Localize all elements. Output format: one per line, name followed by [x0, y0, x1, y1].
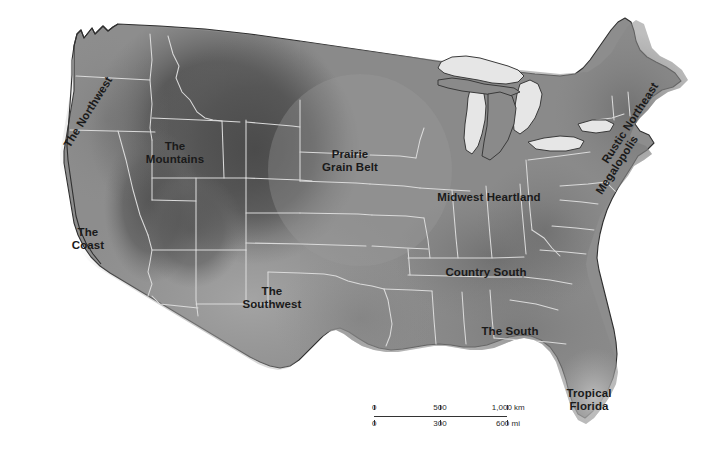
shading-northwest	[46, 34, 170, 206]
map-figure: The Northwest The Mountains The Coast Th…	[0, 0, 716, 456]
density-shading-layer	[46, 0, 716, 456]
shading-utah	[140, 172, 244, 288]
scale-label-mi-300: 300	[433, 419, 446, 428]
scale-bar-line	[374, 416, 507, 417]
scale-label-mi-600: 600 mi	[496, 419, 520, 428]
shading-florida	[552, 348, 636, 448]
scale-label-km-0: 0	[372, 403, 376, 412]
lake-ontario	[578, 120, 614, 133]
shading-texas	[274, 252, 446, 384]
scale-label-mi-0: 0	[372, 419, 376, 428]
us-regions-map	[0, 0, 716, 456]
scale-bar: 0 500 1,000 km 0 300 600 mi	[374, 400, 514, 434]
scale-label-km-500: 500	[433, 403, 446, 412]
shading-northeast	[554, 32, 702, 188]
shading-prairie	[268, 74, 452, 266]
scale-label-km-1000: 1,000 km	[492, 403, 525, 412]
